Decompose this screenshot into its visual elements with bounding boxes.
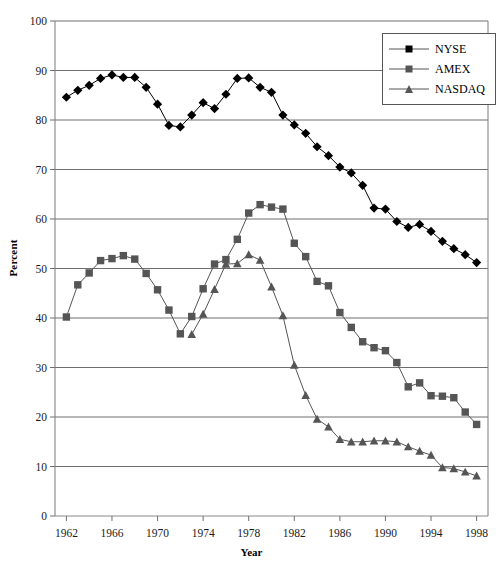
data-point-square [165, 306, 172, 313]
data-point-square [199, 285, 206, 292]
data-point-square [108, 255, 115, 262]
x-tick-label: 1998 [452, 527, 502, 539]
data-point-square [439, 393, 446, 400]
x-tick-label: 1990 [360, 527, 410, 539]
legend-label: AMEX [435, 62, 470, 77]
data-point-diamond [107, 70, 116, 79]
y-tick-label: 50 [17, 263, 47, 275]
data-point-square [416, 379, 423, 386]
data-point-diamond [461, 250, 470, 259]
data-point-square [462, 408, 469, 415]
y-tick-label: 80 [17, 114, 47, 126]
data-point-diamond [73, 86, 82, 95]
legend-label: NYSE [435, 42, 466, 57]
data-point-triangle [256, 256, 265, 264]
data-point-square [268, 203, 275, 210]
legend-marker-triangle-icon [405, 85, 413, 93]
data-point-triangle [279, 311, 288, 319]
data-point-square [177, 330, 184, 337]
data-point-square [97, 257, 104, 264]
data-point-square [85, 269, 92, 276]
data-point-square [313, 278, 320, 285]
data-point-triangle [187, 330, 196, 338]
series-line [192, 255, 477, 476]
x-tick-label: 1982 [269, 527, 319, 539]
data-point-diamond [96, 74, 105, 83]
data-point-triangle [404, 442, 413, 450]
data-point-square [131, 255, 138, 262]
data-point-square [336, 309, 343, 316]
series-line [66, 205, 476, 425]
legend-item-nasdaq: NASDAQ [389, 79, 485, 99]
data-point-triangle [427, 451, 436, 459]
data-point-square [370, 344, 377, 351]
data-point-diamond [164, 121, 173, 130]
y-tick-label: 0 [17, 510, 47, 522]
data-point-diamond [119, 73, 128, 82]
data-point-diamond [404, 223, 413, 232]
data-point-triangle [461, 468, 470, 476]
data-point-triangle [415, 447, 424, 455]
y-tick-label: 90 [17, 65, 47, 77]
data-point-square [120, 252, 127, 259]
data-point-triangle [199, 310, 208, 318]
y-axis-title-container: Percent [2, 0, 24, 516]
data-point-square [142, 270, 149, 277]
data-point-square [450, 394, 457, 401]
data-point-triangle [244, 250, 253, 258]
chart-container: Percent 1009080706050403020100 196219661… [0, 0, 503, 567]
legend-item-amex: AMEX [389, 59, 485, 79]
legend-key-square-icon [389, 62, 429, 76]
data-point-square [74, 281, 81, 288]
data-point-diamond [267, 88, 276, 97]
data-point-square [473, 421, 480, 428]
x-tick-label: 1970 [133, 527, 183, 539]
data-point-square [405, 383, 412, 390]
x-tick-label: 1974 [178, 527, 228, 539]
legend-item-nyse: NYSE [389, 39, 485, 59]
series-nasdaq [187, 250, 480, 479]
data-point-square [63, 313, 70, 320]
y-tick-label: 70 [17, 164, 47, 176]
data-point-triangle [301, 391, 310, 399]
data-point-square [211, 260, 218, 267]
data-point-diamond [210, 104, 219, 113]
data-point-square [279, 205, 286, 212]
y-tick-label: 30 [17, 362, 47, 374]
legend-key-diamond-icon [389, 42, 429, 56]
data-point-diamond [153, 100, 162, 109]
legend-marker-diamond-icon [406, 46, 413, 53]
data-point-square [234, 236, 241, 243]
data-point-square [359, 338, 366, 345]
data-point-square [154, 286, 161, 293]
data-point-diamond [62, 93, 71, 102]
x-axis-title: Year [0, 546, 503, 558]
data-point-triangle [472, 472, 481, 480]
data-point-square [427, 392, 434, 399]
data-point-triangle [267, 283, 276, 291]
chart-legend: NYSEAMEXNASDAQ [382, 33, 496, 105]
data-point-square [291, 240, 298, 247]
legend-label: NASDAQ [435, 82, 485, 97]
data-point-diamond [85, 81, 94, 90]
data-point-diamond [221, 90, 230, 99]
data-point-diamond [449, 244, 458, 253]
data-point-diamond [415, 220, 424, 229]
data-point-triangle [313, 415, 322, 423]
y-tick-label: 10 [17, 461, 47, 473]
data-point-square [382, 347, 389, 354]
data-point-square [256, 201, 263, 208]
x-tick-label: 1978 [224, 527, 274, 539]
data-point-square [188, 313, 195, 320]
y-tick-label: 20 [17, 411, 47, 423]
series-amex [63, 201, 481, 428]
legend-marker-square-icon [406, 66, 413, 73]
data-point-diamond [233, 74, 242, 83]
data-point-diamond [472, 258, 481, 267]
y-tick-label: 40 [17, 312, 47, 324]
data-point-triangle [324, 423, 333, 431]
data-point-diamond [369, 204, 378, 213]
data-point-triangle [290, 361, 299, 369]
data-point-square [302, 253, 309, 260]
x-tick-label: 1966 [87, 527, 137, 539]
